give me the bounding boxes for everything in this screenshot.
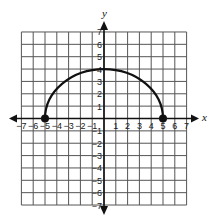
y-tick-label: 6 [97, 40, 102, 50]
y-tick-label: −1 [92, 126, 102, 136]
closed-dot-icon [159, 115, 167, 123]
y-tick-label: −7 [92, 201, 102, 211]
x-tick-label: −2 [75, 121, 85, 131]
x-tick-label: −6 [28, 121, 38, 131]
y-axis-label: y [101, 7, 107, 19]
y-tick-label: −2 [92, 139, 102, 149]
y-tick-label: 7 [97, 27, 102, 37]
x-axis-right-arrow-icon [191, 115, 199, 123]
x-tick-label: 7 [184, 121, 189, 131]
y-tick-label: 2 [97, 89, 102, 99]
x-axis-label: x [201, 111, 207, 123]
x-tick-label: 2 [125, 121, 130, 131]
y-tick-label: −4 [92, 163, 102, 173]
x-tick-label: 6 [172, 121, 177, 131]
y-tick-label: −6 [92, 188, 102, 198]
axes [9, 21, 199, 215]
y-tick-label: 3 [97, 77, 102, 87]
x-tick-label: −7 [16, 121, 26, 131]
x-tick-label: 4 [149, 121, 154, 131]
x-tick-label: 1 [113, 121, 118, 131]
y-tick-label: −5 [92, 176, 102, 186]
x-tick-label: 3 [137, 121, 142, 131]
x-tick-label: −3 [63, 121, 73, 131]
y-tick-label: 1 [97, 102, 102, 112]
closed-dot-icon [41, 115, 49, 123]
y-tick-label: 5 [97, 52, 102, 62]
y-tick-label: −3 [92, 151, 102, 161]
coordinate-plane-chart: −7−6−5−4−3−2−112345677654321−1−2−3−4−5−6… [0, 0, 214, 223]
x-tick-label: −4 [52, 121, 62, 131]
